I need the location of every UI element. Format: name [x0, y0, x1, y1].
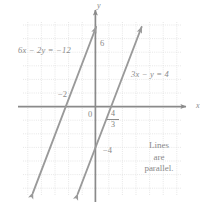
y-axis-label: y [97, 2, 101, 10]
parallel-note-line-1: Lines [149, 140, 169, 150]
parallel-note-line-2: are [154, 152, 165, 162]
parallel-note-line-3: parallel. [144, 163, 173, 173]
fraction-numerator: 4 [107, 110, 119, 119]
equation-label-right: 3x − y = 4 [131, 70, 169, 79]
origin-label: 0 [88, 110, 92, 119]
graph-figure: x y 0 −2 6 −4 4 3 6x − 2y = −12 3x − y =… [0, 0, 208, 209]
graph-canvas [0, 0, 208, 209]
x-axis-label: x [196, 102, 200, 110]
tick-label-x-negative-2: −2 [58, 90, 67, 99]
fraction-denominator: 3 [107, 121, 119, 130]
tick-label-y-negative-4: −4 [103, 146, 112, 155]
tick-label-y-6: 6 [100, 39, 104, 48]
equation-label-left: 6x − 2y = −12 [18, 46, 71, 55]
parallel-note: Lines are parallel. [131, 140, 187, 175]
tick-label-x-four-thirds: 4 3 [107, 110, 119, 129]
